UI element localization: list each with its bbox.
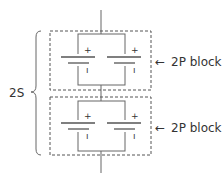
parallel-block-2: + ı + ı ← 2P block <box>50 97 222 155</box>
block-label: 2P block <box>171 55 222 69</box>
negative-mark: ı <box>86 65 89 75</box>
block-label: 2P block <box>171 121 222 135</box>
left-arrow-icon: ← <box>155 55 165 69</box>
left-arrow-icon: ← <box>155 121 165 135</box>
negative-mark: ı <box>133 65 136 75</box>
parallel-loop <box>78 34 125 85</box>
block-boundary <box>50 97 151 155</box>
block-boundary <box>50 31 151 90</box>
series-brace <box>31 31 41 155</box>
series-label: 2S <box>9 86 24 100</box>
cell-right: + ı <box>107 45 141 75</box>
battery-2s2p-diagram: 2S + ı + ı ← 2P block <box>0 0 223 182</box>
positive-mark: + <box>84 45 92 55</box>
positive-mark: + <box>84 111 92 121</box>
cell-right: + ı <box>107 111 141 141</box>
positive-mark: + <box>131 45 139 55</box>
positive-mark: + <box>131 111 139 121</box>
parallel-block-1: + ı + ı ← 2P block <box>50 31 222 90</box>
parallel-loop <box>78 101 125 151</box>
negative-mark: ı <box>86 131 89 141</box>
negative-mark: ı <box>133 131 136 141</box>
